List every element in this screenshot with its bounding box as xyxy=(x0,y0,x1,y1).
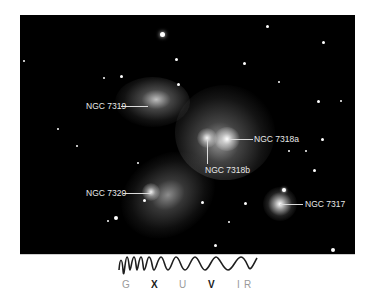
band-u: U xyxy=(179,279,186,290)
star xyxy=(340,100,342,102)
galaxy-image: NGC 7319 NGC 7318a NGC 7318b NGC 7320 NG… xyxy=(20,15,355,255)
star xyxy=(201,201,204,204)
leader-line-ngc7318a xyxy=(230,139,253,140)
star xyxy=(214,244,217,247)
leader-line-ngc7318b xyxy=(207,139,208,164)
band-g: G xyxy=(122,279,130,290)
label-ngc7317: NGC 7317 xyxy=(305,199,345,209)
star xyxy=(103,77,105,79)
star xyxy=(288,150,290,152)
star xyxy=(114,216,118,220)
star xyxy=(107,220,109,222)
label-ngc7319: NGC 7319 xyxy=(86,101,126,111)
leader-line-ngc7320 xyxy=(123,193,151,194)
star xyxy=(175,58,178,61)
star xyxy=(243,62,246,65)
star xyxy=(331,248,335,252)
label-ngc7318b: NGC 7318b xyxy=(205,165,250,175)
band-v: V xyxy=(208,279,215,290)
star xyxy=(244,202,247,205)
star xyxy=(120,75,123,78)
star xyxy=(177,83,180,86)
star xyxy=(143,199,146,202)
star xyxy=(23,60,25,62)
spectrum-wave-icon xyxy=(118,255,258,275)
star xyxy=(282,188,286,192)
star xyxy=(322,41,325,44)
star xyxy=(317,100,320,103)
star xyxy=(57,128,59,130)
star xyxy=(278,81,280,83)
star xyxy=(228,221,230,223)
star xyxy=(305,150,307,152)
star xyxy=(137,162,139,164)
band-r: R xyxy=(244,279,251,290)
star xyxy=(160,32,165,37)
leader-line-ngc7317 xyxy=(280,204,303,205)
label-ngc7320: NGC 7320 xyxy=(86,188,126,198)
band-i: I xyxy=(237,279,240,290)
star xyxy=(76,145,78,147)
band-x: X xyxy=(151,279,158,290)
label-ngc7318a: NGC 7318a xyxy=(254,134,299,144)
star xyxy=(266,25,269,28)
spectrum-band-labels: G X U V I R xyxy=(0,279,372,291)
star xyxy=(313,169,316,172)
star xyxy=(321,138,324,141)
